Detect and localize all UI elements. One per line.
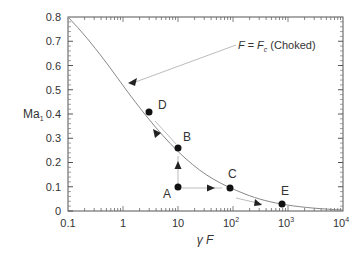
annotation-arrowhead-icon: [128, 78, 137, 86]
svg-text:0.3: 0.3: [46, 132, 61, 144]
svg-text:0.4: 0.4: [46, 108, 61, 120]
svg-text:0.6: 0.6: [46, 60, 61, 72]
svg-text:D: D: [158, 98, 167, 112]
svg-text:10: 10: [172, 217, 184, 229]
svg-text:C: C: [228, 167, 237, 181]
point-E: [279, 201, 286, 208]
svg-text:0.2: 0.2: [46, 156, 61, 168]
svg-text:A: A: [163, 187, 171, 201]
y-tick-labels: 0 0.1 0.2 0.3 0.4 0.5 0.6 0.7 0.8: [46, 11, 61, 217]
annotation-leader: [130, 45, 236, 84]
svg-text:1: 1: [120, 217, 126, 229]
point-B: [175, 145, 182, 152]
point-A: [175, 184, 182, 191]
arrow-down-right-icon: [254, 199, 262, 206]
arrow-right-icon: [207, 185, 215, 192]
point-D: [146, 109, 153, 116]
svg-text:0.8: 0.8: [46, 11, 61, 23]
svg-text:0.5: 0.5: [46, 84, 61, 96]
choked-annotation: F = Fc (Choked): [238, 39, 316, 53]
chart: 0 0.1 0.2 0.3 0.4 0.5 0.6 0.7 0.8 0.1 1 …: [0, 0, 362, 258]
svg-text:104: 104: [333, 216, 349, 229]
process-arrows: [155, 121, 262, 204]
point-C: [227, 185, 234, 192]
svg-text:103: 103: [278, 216, 294, 229]
svg-text:0.1: 0.1: [46, 181, 61, 193]
svg-text:102: 102: [223, 216, 239, 229]
arrow-up-icon: [175, 161, 182, 169]
y-axis-title: Ma1: [23, 107, 44, 122]
x-axis-title: γ F: [197, 233, 214, 247]
svg-text:0: 0: [55, 205, 61, 217]
svg-text:B: B: [183, 130, 191, 144]
svg-text:0.7: 0.7: [46, 35, 61, 47]
svg-text:E: E: [281, 184, 289, 198]
x-tick-labels: 0.1 1 10 102 103 104: [60, 216, 349, 229]
svg-text:0.1: 0.1: [60, 217, 75, 229]
arrow-up-left-icon: [153, 129, 161, 138]
